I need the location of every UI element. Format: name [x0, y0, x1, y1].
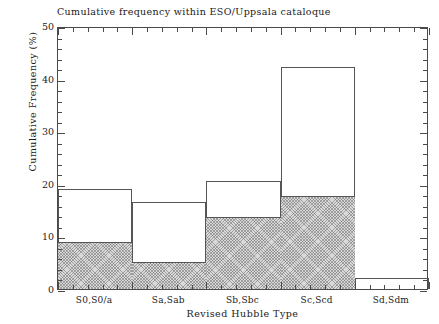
y-tick-minor — [58, 175, 62, 176]
y-tick-label-40: 40 — [42, 75, 54, 85]
bar-shaded-2 — [206, 217, 280, 289]
plot-inner — [58, 28, 427, 289]
y-tick-minor — [423, 270, 427, 271]
y-tick-minor — [423, 217, 427, 218]
x-tick-minor — [236, 28, 237, 32]
y-tick-major — [58, 238, 65, 239]
bar-shaded-0 — [58, 242, 132, 289]
y-tick-minor — [58, 196, 62, 197]
x-tick-minor — [399, 28, 400, 32]
y-tick-major — [420, 291, 427, 292]
x-tick-minor — [325, 285, 326, 289]
x-tick-minor — [251, 28, 252, 32]
y-tick-major — [420, 28, 427, 29]
x-tick-minor — [370, 28, 371, 32]
y-tick-minor — [58, 39, 62, 40]
y-tick-major — [58, 28, 65, 29]
y-tick-minor — [58, 249, 62, 250]
x-tick-minor — [266, 28, 267, 32]
x-tick-minor — [103, 285, 104, 289]
x-axis-label: Revised Hubble Type — [57, 308, 428, 319]
x-tick-minor — [384, 28, 385, 32]
x-tick-minor — [340, 28, 341, 32]
y-tick-label-10: 10 — [42, 232, 54, 242]
y-tick-minor — [58, 217, 62, 218]
x-tick-major — [281, 282, 282, 289]
y-tick-major — [58, 186, 65, 187]
y-tick-label-50: 50 — [42, 22, 54, 32]
y-tick-minor — [423, 144, 427, 145]
x-tick-minor — [310, 285, 311, 289]
plot-area — [57, 27, 428, 290]
x-tick-major — [206, 282, 207, 289]
y-tick-minor — [423, 165, 427, 166]
x-tick-minor — [295, 285, 296, 289]
chart-title: Cumulative frequency within ESO/Uppsala … — [57, 6, 331, 17]
x-tick-label-1: Sa,Sab — [131, 295, 205, 305]
y-tick-minor — [58, 123, 62, 124]
x-tick-major — [132, 282, 133, 289]
x-tick-minor — [384, 285, 385, 289]
y-tick-minor — [423, 280, 427, 281]
y-tick-minor — [58, 112, 62, 113]
y-tick-minor — [423, 112, 427, 113]
y-axis-label: Cumulative Frequency (%) — [27, 12, 38, 192]
x-tick-major — [281, 28, 282, 35]
y-tick-minor — [423, 207, 427, 208]
x-tick-minor — [251, 285, 252, 289]
y-tick-minor — [423, 196, 427, 197]
x-tick-minor — [236, 285, 237, 289]
x-tick-minor — [117, 28, 118, 32]
x-tick-minor — [73, 285, 74, 289]
y-tick-minor — [58, 70, 62, 71]
histogram-figure: Cumulative frequency within ESO/Uppsala … — [0, 0, 439, 324]
y-tick-minor — [423, 49, 427, 50]
y-tick-major — [58, 291, 65, 292]
y-tick-major — [420, 81, 427, 82]
y-tick-major — [420, 186, 427, 187]
x-tick-label-2: Sb,Sbc — [205, 295, 279, 305]
y-tick-minor — [58, 154, 62, 155]
y-tick-minor — [423, 70, 427, 71]
y-tick-label-30: 30 — [42, 127, 54, 137]
x-tick-label-3: Sc,Scd — [280, 295, 354, 305]
y-tick-minor — [58, 60, 62, 61]
y-tick-minor — [58, 259, 62, 260]
x-tick-minor — [192, 285, 193, 289]
y-tick-major — [420, 238, 427, 239]
bar-outlined-4 — [355, 278, 429, 289]
x-tick-major — [58, 282, 59, 289]
x-tick-label-4: Sd,Sdm — [354, 295, 428, 305]
x-tick-minor — [73, 28, 74, 32]
x-tick-minor — [177, 28, 178, 32]
x-tick-major — [429, 282, 430, 289]
y-tick-minor — [423, 249, 427, 250]
y-tick-minor — [58, 91, 62, 92]
x-tick-minor — [325, 28, 326, 32]
x-tick-minor — [192, 28, 193, 32]
bar-shaded-1 — [132, 262, 206, 289]
y-tick-label-0: 0 — [48, 285, 54, 295]
x-tick-minor — [177, 285, 178, 289]
y-tick-minor — [58, 165, 62, 166]
x-tick-minor — [147, 285, 148, 289]
x-tick-minor — [88, 28, 89, 32]
y-tick-minor — [423, 39, 427, 40]
y-tick-minor — [58, 228, 62, 229]
x-tick-major — [132, 28, 133, 35]
x-tick-minor — [221, 28, 222, 32]
x-tick-minor — [147, 28, 148, 32]
y-tick-minor — [58, 144, 62, 145]
y-tick-minor — [423, 259, 427, 260]
x-tick-minor — [266, 285, 267, 289]
y-tick-minor — [423, 102, 427, 103]
y-tick-minor — [58, 270, 62, 271]
x-tick-major — [355, 28, 356, 35]
bar-shaded-3 — [281, 196, 355, 289]
x-tick-minor — [399, 285, 400, 289]
y-tick-minor — [423, 123, 427, 124]
y-tick-minor — [423, 175, 427, 176]
x-tick-minor — [414, 28, 415, 32]
x-tick-minor — [162, 285, 163, 289]
x-tick-minor — [295, 28, 296, 32]
